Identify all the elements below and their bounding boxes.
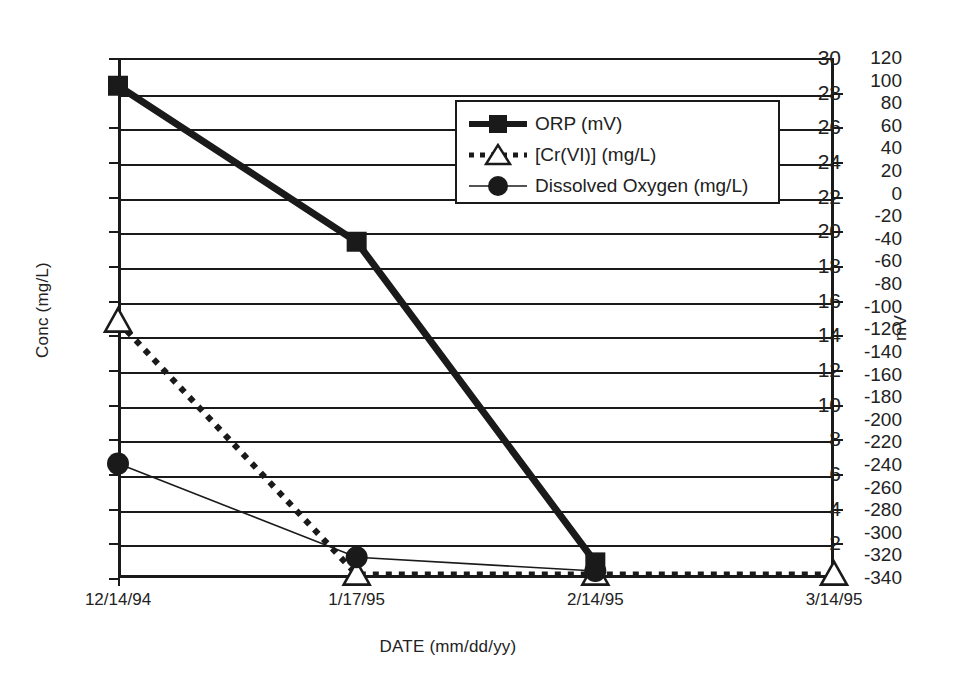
y-axis-right-tick-label: -260 xyxy=(846,477,902,499)
legend-item-label: ORP (mV) xyxy=(535,113,622,135)
y-axis-right-tick-label: -60 xyxy=(846,250,902,272)
y-axis-left-tick-label: 14 xyxy=(781,323,841,347)
gridline xyxy=(121,511,831,513)
filled-circle-icon xyxy=(467,174,529,198)
y-axis-right-tick-label: -200 xyxy=(846,409,902,431)
gridline xyxy=(121,476,831,478)
gridline xyxy=(121,545,831,547)
y-axis-right-tick-label: 80 xyxy=(846,92,902,114)
y-axis-right-tick-label: -300 xyxy=(846,522,902,544)
y-axis-left-tick-mark xyxy=(109,266,118,268)
x-axis-title: DATE (mm/dd/yy) xyxy=(318,637,578,657)
y-axis-right-tick-mark xyxy=(834,370,843,372)
gridline xyxy=(121,337,831,339)
y-axis-left-tick-label: 20 xyxy=(781,219,841,243)
y-axis-right-tick-label: 60 xyxy=(846,115,902,137)
y-axis-right-tick-mark xyxy=(834,266,843,268)
y-axis-right-tick-label: -240 xyxy=(846,454,902,476)
y-axis-left-tick-mark xyxy=(109,474,118,476)
y-axis-left-tick-mark xyxy=(109,93,118,95)
gridline xyxy=(121,95,831,97)
y-axis-right-tick-label: -100 xyxy=(846,296,902,318)
y-axis-left-tick-label: 12 xyxy=(781,358,841,382)
y-axis-left-tick-label: 0 xyxy=(781,566,841,590)
y-axis-left-tick-mark xyxy=(109,578,118,580)
y-axis-left-tick-label: 28 xyxy=(781,81,841,105)
y-axis-left-title: Conc (mg/L) xyxy=(33,215,53,405)
y-axis-right-tick-label: -180 xyxy=(846,386,902,408)
gridline xyxy=(121,233,831,235)
y-axis-left-tick-mark xyxy=(109,370,118,372)
gridline xyxy=(121,303,831,305)
y-axis-right-tick-label: 120 xyxy=(846,47,902,69)
open-triangle-icon xyxy=(467,143,529,167)
x-axis-tick-label: 3/14/95 xyxy=(806,590,863,610)
y-axis-right-tick-label: -280 xyxy=(846,499,902,521)
y-axis-right-tick-label: -160 xyxy=(846,364,902,386)
y-axis-right-tick-label: 100 xyxy=(846,70,902,92)
y-axis-left-tick-label: 8 xyxy=(781,427,841,451)
gridline xyxy=(121,441,831,443)
y-axis-left-tick-label: 18 xyxy=(781,254,841,278)
y-axis-left-tick-label: 16 xyxy=(781,289,841,313)
y-axis-left-tick-mark xyxy=(109,162,118,164)
y-axis-left-tick-mark xyxy=(109,127,118,129)
y-axis-right-tick-mark xyxy=(834,509,843,511)
x-axis-tick-label: 2/14/95 xyxy=(567,590,624,610)
legend-item[interactable]: [Cr(VI)] (mg/L) xyxy=(467,139,768,170)
y-axis-right-tick-mark xyxy=(834,439,843,441)
y-axis-left-tick-label: 6 xyxy=(781,462,841,486)
y-axis-left-tick-label: 2 xyxy=(781,531,841,555)
y-axis-left-tick-label: 26 xyxy=(781,115,841,139)
y-axis-right-tick-mark xyxy=(834,231,843,233)
chart-canvas: Conc (mg/L) mV DATE (mm/dd/yy) 024681012… xyxy=(0,0,965,676)
legend-item-label: Dissolved Oxygen (mg/L) xyxy=(535,175,748,197)
legend-item[interactable]: ORP (mV) xyxy=(467,108,768,139)
y-axis-right-tick-label: -320 xyxy=(846,544,902,566)
y-axis-right-tick-mark xyxy=(834,543,843,545)
y-axis-left-tick-mark xyxy=(109,405,118,407)
y-axis-right-tick-mark xyxy=(834,301,843,303)
y-axis-left-tick-mark xyxy=(109,197,118,199)
y-axis-right-tick-mark xyxy=(834,127,843,129)
x-axis-tick-label: 1/17/95 xyxy=(328,590,385,610)
y-axis-right-tick-label: 20 xyxy=(846,160,902,182)
y-axis-right-tick-label: -220 xyxy=(846,431,902,453)
legend-item[interactable]: Dissolved Oxygen (mg/L) xyxy=(467,170,768,201)
y-axis-right-tick-mark xyxy=(834,93,843,95)
y-axis-left-tick-label: 4 xyxy=(781,497,841,521)
y-axis-left-tick-mark xyxy=(109,335,118,337)
gridline xyxy=(121,407,831,409)
x-axis-tick-mark xyxy=(118,578,120,586)
x-axis-tick-label: 12/14/94 xyxy=(85,590,151,610)
y-axis-left-tick-mark xyxy=(109,301,118,303)
y-axis-right-tick-label: 40 xyxy=(846,137,902,159)
y-axis-left-tick-mark xyxy=(109,509,118,511)
y-axis-left-tick-label: 10 xyxy=(781,393,841,417)
y-axis-left-tick-mark xyxy=(109,543,118,545)
y-axis-right-tick-mark xyxy=(834,335,843,337)
chart-legend: ORP (mV)[Cr(VI)] (mg/L)Dissolved Oxygen … xyxy=(455,100,780,204)
y-axis-right-tick-mark xyxy=(834,197,843,199)
y-axis-right-tick-label: -340 xyxy=(846,567,902,589)
y-axis-left-tick-label: 22 xyxy=(781,185,841,209)
y-axis-left-tick-mark xyxy=(109,439,118,441)
y-axis-left-tick-mark xyxy=(109,231,118,233)
y-axis-right-tick-label: -20 xyxy=(846,205,902,227)
y-axis-left-tick-label: 24 xyxy=(781,150,841,174)
y-axis-left-tick-label: 30 xyxy=(781,46,841,70)
y-axis-right-tick-mark xyxy=(834,474,843,476)
y-axis-right-tick-label: -40 xyxy=(846,228,902,250)
x-axis-tick-mark xyxy=(595,578,597,586)
y-axis-right-tick-mark xyxy=(834,162,843,164)
x-axis-tick-mark xyxy=(834,578,836,586)
y-axis-right-tick-label: 0 xyxy=(846,183,902,205)
gridline xyxy=(121,268,831,270)
y-axis-right-tick-label: -80 xyxy=(846,273,902,295)
y-axis-left-tick-mark xyxy=(109,58,118,60)
filled-square-icon xyxy=(467,112,529,136)
y-axis-right-tick-label: -140 xyxy=(846,341,902,363)
y-axis-right-tick-label: -120 xyxy=(846,318,902,340)
legend-item-label: [Cr(VI)] (mg/L) xyxy=(535,144,656,166)
y-axis-right-tick-mark xyxy=(834,405,843,407)
